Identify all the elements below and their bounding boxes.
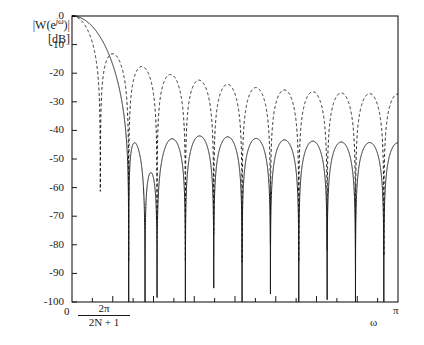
x-axis-first-tick-label: 2π 2N + 1 — [78, 303, 130, 328]
y-tick-label: -60 — [32, 181, 64, 193]
x-axis-tick-marks — [92, 296, 377, 302]
y-axis-tick-marks — [72, 16, 77, 302]
y-tick-label: -20 — [32, 66, 64, 78]
y-tick-label: -90 — [32, 266, 64, 278]
fraction-denominator: 2N + 1 — [78, 316, 130, 328]
x-axis-title: ω — [370, 316, 377, 328]
y-tick-label: -100 — [32, 295, 64, 307]
x-axis-pi-label: π — [393, 304, 399, 316]
axes-frame — [72, 16, 398, 302]
data-curves — [72, 16, 398, 302]
figure-container: |W(ejω)| [dB] 0-10-20-30-40-50-60-70-80-… — [0, 0, 424, 345]
y-tick-label: 0 — [32, 9, 64, 21]
y-tick-label: -80 — [32, 238, 64, 250]
plot-canvas — [0, 0, 424, 345]
curve-rectangular-window — [72, 16, 398, 262]
y-tick-label: -40 — [32, 123, 64, 135]
y-tick-label: -70 — [32, 209, 64, 221]
y-tick-label: -30 — [32, 95, 64, 107]
fraction-numerator: 2π — [78, 303, 130, 316]
x-axis-zero-label: 0 — [64, 305, 70, 317]
y-tick-label: -10 — [32, 38, 64, 50]
curve-tapered-window — [72, 16, 398, 302]
y-tick-label: -50 — [32, 152, 64, 164]
